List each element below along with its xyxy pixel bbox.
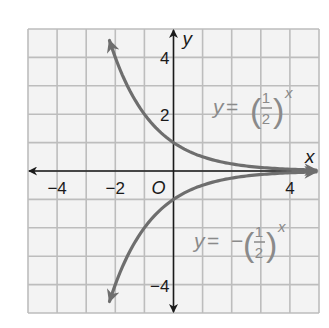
fraction-numerator: 1 bbox=[262, 89, 270, 106]
y-tick-label: 4 bbox=[160, 49, 169, 68]
equation-minus: − bbox=[231, 229, 243, 252]
equation-y: y bbox=[192, 229, 206, 252]
x-tick-label: 4 bbox=[285, 179, 294, 198]
equation-y: y bbox=[211, 95, 225, 118]
x-tick-label: −4 bbox=[47, 179, 66, 198]
left-paren: ( bbox=[243, 225, 255, 263]
origin-label: O bbox=[152, 178, 166, 198]
y-axis-label: y bbox=[181, 28, 194, 49]
y-tick-label: 2 bbox=[160, 106, 169, 125]
equation-equals: = bbox=[207, 229, 219, 252]
x-tick-label: −2 bbox=[106, 179, 125, 198]
exponential-graph: −4−2442−4 x y O y = (12)xy = −(12)x bbox=[0, 0, 329, 328]
exponent: x bbox=[277, 218, 286, 235]
equation-equals: = bbox=[226, 95, 238, 118]
fraction-denominator: 2 bbox=[255, 244, 263, 261]
left-paren: ( bbox=[250, 91, 262, 129]
exponent: x bbox=[284, 84, 293, 101]
fraction-denominator: 2 bbox=[262, 110, 270, 127]
x-axis-label: x bbox=[304, 146, 316, 167]
right-paren: ) bbox=[273, 91, 284, 129]
fraction-numerator: 1 bbox=[255, 223, 263, 240]
y-tick-label: −4 bbox=[150, 277, 169, 296]
right-paren: ) bbox=[266, 225, 277, 263]
